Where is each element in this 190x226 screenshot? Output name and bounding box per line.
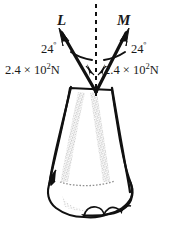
force-vector-L: [59, 28, 96, 92]
force-magnitude-right: 2.4 × 102N: [104, 64, 159, 77]
force-right-mantissa: 2.4 × 10: [104, 63, 145, 77]
diagram-canvas: [0, 0, 190, 226]
angle-right-value: 24: [131, 42, 144, 56]
angle-left-value: 24: [41, 42, 54, 56]
angle-label-right: 24º: [131, 43, 146, 56]
vector-apex-point: [94, 90, 97, 93]
vector-label-M: M: [117, 13, 131, 28]
force-left-unit: N: [51, 63, 60, 77]
bone-outline: [48, 87, 132, 217]
vector-label-L: L: [57, 13, 66, 28]
vector-L-angle-tick: [87, 64, 93, 76]
force-right-unit: N: [150, 63, 159, 77]
angle-label-left: 24º: [41, 43, 56, 56]
force-diagram-figure: L M 24º 24º 2.4 × 102N 2.4 × 102N: [0, 0, 190, 226]
force-magnitude-left: 2.4 × 102N: [5, 64, 60, 77]
angle-left-degree-symbol: º: [54, 40, 57, 50]
force-vector-M: [96, 28, 129, 92]
vector-L-shaft: [62, 33, 96, 92]
force-left-mantissa: 2.4 × 10: [5, 63, 46, 77]
angle-right-degree-symbol: º: [144, 40, 147, 50]
